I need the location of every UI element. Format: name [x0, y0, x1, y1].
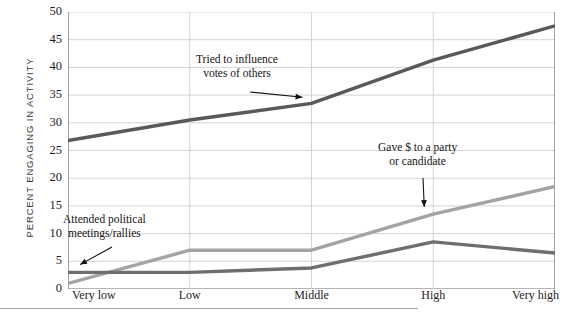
y-tick-label-35: 35 — [34, 88, 62, 101]
y-tick-label-25: 25 — [34, 144, 62, 157]
y-tick-label-45: 45 — [34, 33, 62, 46]
footer-rule — [0, 308, 418, 309]
y-axis-tick-labels: 05101520253035404550 — [30, 0, 62, 315]
x-tick-label-middle: Middle — [294, 288, 329, 303]
x-tick-label-very-low: Very low — [72, 288, 116, 303]
y-tick-label-15: 15 — [34, 199, 62, 212]
y-tick-label-0: 0 — [34, 282, 62, 295]
leader-arrowhead-influence — [295, 94, 302, 100]
chart-figure: PERCENT ENGAGING IN ACTIVITY 05101520253… — [0, 0, 563, 315]
annotation-line: Gave $ to a party — [378, 140, 457, 154]
annotation-line: Tried to influence — [196, 52, 278, 66]
y-tick-label-30: 30 — [34, 116, 62, 129]
y-tick-label-20: 20 — [34, 171, 62, 184]
y-tick-label-5: 5 — [34, 254, 62, 267]
x-tick-label-very-high: Very high — [512, 288, 559, 303]
y-tick-label-10: 10 — [34, 227, 62, 240]
y-tick-label-40: 40 — [34, 60, 62, 73]
y-tick-label-50: 50 — [34, 5, 62, 18]
plot-area — [68, 12, 555, 289]
annotation-line: votes of others — [196, 66, 278, 80]
x-tick-label-low: Low — [179, 288, 201, 303]
x-tick-label-high: High — [421, 288, 445, 303]
annotation-tried-to-influence: Tried to influencevotes of others — [196, 52, 278, 80]
annotation-attended-meetings: Attended politicalmeetings/rallies — [63, 212, 146, 240]
annotation-line: or candidate — [378, 154, 457, 168]
annotation-line: meetings/rallies — [63, 226, 146, 240]
annotation-line: Attended political — [63, 212, 146, 226]
annotation-gave-money: Gave $ to a partyor candidate — [378, 140, 457, 168]
